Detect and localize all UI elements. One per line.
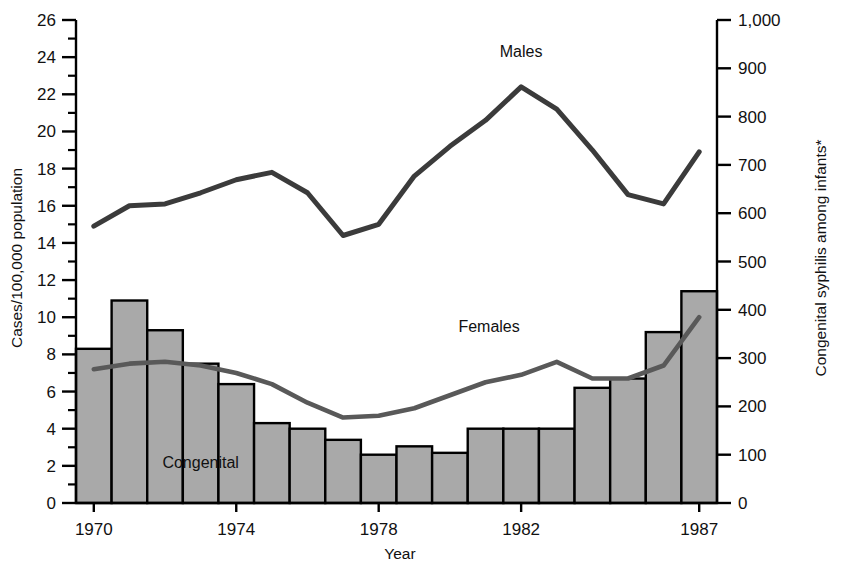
left-tick-label: 14 — [37, 234, 56, 253]
left-tick-label: 16 — [37, 197, 56, 216]
left-tick-label: 2 — [47, 457, 56, 476]
right-tick-label: 200 — [738, 397, 766, 416]
bar-1985 — [610, 379, 646, 503]
left-tick-label: 4 — [47, 420, 56, 439]
bar-1982 — [503, 429, 539, 503]
annotation-females: Females — [458, 318, 519, 335]
annotation-males: Males — [500, 43, 543, 60]
right-tick-label: 100 — [738, 446, 766, 465]
bar-1974 — [218, 384, 254, 503]
bar-1972 — [147, 330, 183, 503]
chart-figure: 02468101214161820222426 0100200300400500… — [0, 0, 842, 565]
bar-1987 — [681, 291, 717, 503]
right-tick-label: 500 — [738, 253, 766, 272]
left-tick-label: 18 — [37, 160, 56, 179]
bar-1986 — [646, 332, 682, 503]
right-tick-label: 800 — [738, 108, 766, 127]
left-tick-label: 10 — [37, 308, 56, 327]
bar-1983 — [539, 429, 575, 503]
left-tick-label: 12 — [37, 271, 56, 290]
bar-1981 — [468, 429, 504, 503]
bar-1973 — [183, 364, 219, 503]
right-tick-label: 300 — [738, 349, 766, 368]
right-tick-label: 700 — [738, 156, 766, 175]
bar-1970 — [76, 349, 112, 503]
syphilis-trend-chart: 02468101214161820222426 0100200300400500… — [0, 0, 842, 565]
right-axis-title: Congenital syphilis among infants* — [812, 140, 829, 377]
bar-1971 — [112, 301, 148, 503]
x-tick-label: 1970 — [75, 520, 113, 539]
left-tick-label: 20 — [37, 122, 56, 141]
bar-1976 — [290, 429, 326, 503]
left-tick-label: 24 — [37, 48, 56, 67]
left-tick-label: 22 — [37, 85, 56, 104]
bar-1978 — [361, 455, 397, 503]
annotation-congenital: Congenital — [162, 454, 239, 471]
x-tick-label: 1974 — [217, 520, 255, 539]
left-tick-label: 8 — [47, 345, 56, 364]
x-axis-title: Year — [384, 545, 415, 562]
left-axis-title: Cases/100,000 population — [8, 168, 25, 348]
right-tick-label: 600 — [738, 204, 766, 223]
left-tick-label: 6 — [47, 383, 56, 402]
left-tick-label: 0 — [47, 494, 56, 513]
bar-1977 — [325, 440, 361, 503]
x-tick-label: 1987 — [680, 520, 718, 539]
x-tick-label: 1978 — [360, 520, 398, 539]
right-tick-label: 400 — [738, 301, 766, 320]
right-tick-label: 900 — [738, 59, 766, 78]
x-tick-label: 1982 — [502, 520, 540, 539]
bar-1975 — [254, 423, 290, 503]
right-tick-label: 1,000 — [738, 11, 781, 30]
right-tick-label: 0 — [738, 494, 747, 513]
bar-1979 — [397, 446, 433, 503]
bar-1984 — [575, 388, 611, 503]
bar-1980 — [432, 453, 468, 503]
left-tick-label: 26 — [37, 11, 56, 30]
